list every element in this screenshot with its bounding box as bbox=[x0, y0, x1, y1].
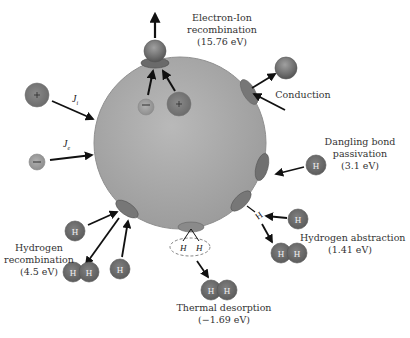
svg-text:H: H bbox=[179, 243, 187, 253]
label-hydrogen-abstraction: Hydrogen abstraction (1.41 eV) bbox=[300, 232, 400, 256]
svg-text:H: H bbox=[224, 286, 231, 296]
recombination-in-arrow-1 bbox=[88, 212, 117, 225]
label-thermal-desorption: Thermal desorption (−1.69 eV) bbox=[174, 302, 274, 326]
svg-text:H: H bbox=[117, 265, 124, 275]
desorbing-pair-halo bbox=[170, 238, 210, 256]
svg-text:H: H bbox=[313, 161, 320, 171]
svg-text:H: H bbox=[195, 243, 203, 253]
svg-text:H: H bbox=[208, 286, 215, 296]
surface-electron bbox=[138, 99, 154, 115]
plasma-surface-interaction-diagram: H H H H H H H H bbox=[0, 0, 410, 338]
conduction-out-arrow bbox=[252, 74, 275, 88]
ion-flux-label: Ji bbox=[72, 93, 78, 106]
passivation-arrow bbox=[276, 167, 304, 174]
hydrogen-recombination-group: H H H H bbox=[63, 197, 141, 282]
electron-flux-arrow bbox=[50, 155, 92, 160]
svg-text:H: H bbox=[278, 249, 285, 259]
label-electron-ion-recombination: Electron-Ion recombination (15.76 eV) bbox=[172, 12, 272, 48]
label-hydrogen-recombination: Hydrogen recombination (4.5 eV) bbox=[4, 242, 74, 278]
conduction-particle bbox=[275, 57, 297, 79]
electron-flux-label: Je bbox=[63, 138, 70, 151]
label-conduction: Conduction bbox=[268, 89, 338, 101]
dangling-bond-passivation-group: H bbox=[253, 152, 326, 182]
desorption-arrow bbox=[197, 261, 208, 277]
svg-text:H: H bbox=[253, 209, 264, 221]
hydrogen-abstraction-group: H H H H bbox=[228, 188, 308, 263]
abstraction-in-arrow bbox=[266, 216, 287, 218]
recombination-out-arrow bbox=[86, 218, 119, 264]
abstraction-out-arrow bbox=[262, 224, 272, 242]
label-dangling-bond-passivation: Dangling bond passivation (3.1 eV) bbox=[320, 136, 400, 172]
svg-text:H: H bbox=[295, 215, 302, 225]
thermal-desorption-group: H H H H bbox=[170, 222, 237, 300]
incoming-fluxes bbox=[25, 83, 93, 170]
svg-text:H: H bbox=[86, 268, 93, 278]
recombination-in-arrow-2 bbox=[122, 221, 128, 257]
neutral-atom bbox=[144, 40, 166, 62]
surface-site bbox=[178, 222, 204, 232]
svg-text:H: H bbox=[72, 227, 79, 237]
